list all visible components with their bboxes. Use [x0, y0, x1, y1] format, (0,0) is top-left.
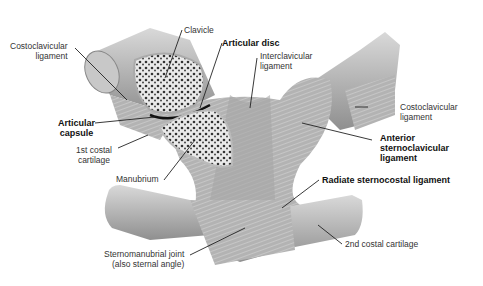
label-line: Articular	[58, 118, 95, 128]
label-sternomanubrial-joint: Sternomanubrial joint (also sternal angl…	[104, 250, 184, 269]
label-costoclavicular-right: Costoclavicular ligament	[400, 103, 458, 122]
label-articular-disc: Articular disc	[222, 38, 280, 48]
label-line: ligament	[380, 153, 449, 163]
label-line: capsule	[58, 128, 95, 138]
label-first-costal-cartilage: 1st costal cartilage	[76, 146, 112, 165]
label-clavicle: Clavicle	[184, 26, 214, 36]
label-line: ligament	[400, 113, 458, 123]
label-line: cartilage	[76, 156, 112, 166]
label-line: Anterior	[380, 133, 449, 143]
label-interclavicular-ligament: Interclavicular ligament	[260, 52, 312, 71]
label-line: (also sternal angle)	[104, 260, 184, 270]
label-line: ligament	[10, 52, 68, 62]
label-second-costal-cartilage: 2nd costal cartilage	[345, 240, 418, 250]
label-anterior-sternoclavicular-ligament: Anterior sternoclavicular ligament	[380, 133, 449, 163]
label-line: sternoclavicular	[380, 143, 449, 153]
label-manubrium: Manubrium	[116, 175, 159, 185]
label-articular-capsule: Articular capsule	[58, 118, 95, 138]
label-radiate-sternocostal-ligament: Radiate sternocostal ligament	[322, 175, 450, 185]
anatomy-diagram: Costoclavicular ligament Clavicle Articu…	[0, 0, 483, 286]
label-costoclavicular-left: Costoclavicular ligament	[10, 42, 68, 61]
clavicle-cross-section	[134, 54, 204, 113]
label-line: ligament	[260, 62, 312, 72]
